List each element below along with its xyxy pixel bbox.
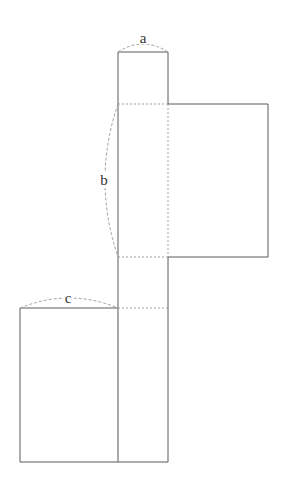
fold-lines — [118, 104, 168, 462]
box-net-diagram: a b c — [0, 0, 285, 481]
label-a: a — [140, 30, 147, 46]
label-b: b — [100, 172, 108, 188]
label-c: c — [65, 290, 72, 306]
dimension-arcs — [20, 44, 168, 308]
